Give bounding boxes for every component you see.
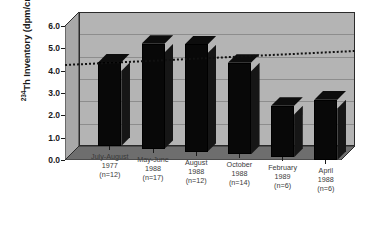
bar — [228, 63, 251, 155]
bar — [271, 106, 294, 157]
x-axis-label-line: February — [249, 163, 317, 172]
x-axis-label-line: (n=12) — [162, 176, 230, 185]
x-axis-label-line: 1988 — [205, 169, 273, 178]
y-axis-tick-label: 0.0 — [48, 155, 60, 165]
y-axis-tick-label: 6.0 — [48, 21, 60, 31]
bar-front-face — [98, 62, 121, 146]
bar — [314, 100, 337, 160]
x-axis-label-line: (n=6) — [292, 184, 360, 193]
y-axis-tick-label: 5.0 — [48, 43, 60, 53]
y-axis-tick-mark — [61, 160, 65, 161]
x-axis-label-line: (n=6) — [249, 181, 317, 190]
x-axis-label-line: (n=17) — [119, 173, 187, 182]
bar-front-face — [185, 44, 208, 151]
plot-area — [65, 12, 355, 160]
chart-root: 234Th Inventory (dpm/cm)2 0.01.02.03.04.… — [0, 0, 368, 226]
bar-series — [65, 12, 355, 160]
bar-side-face — [121, 62, 130, 146]
y-axis-title-main: Th Inventory (dpm/cm) — [21, 0, 32, 91]
bar — [98, 62, 121, 146]
y-axis-tick-labels: 0.01.02.03.04.05.06.0 — [36, 0, 60, 170]
y-axis-title: 234Th Inventory (dpm/cm)2 — [20, 0, 32, 114]
bar-top-face — [185, 36, 217, 45]
x-axis-category-label: August1988(n=12) — [162, 158, 230, 185]
bar-top-face — [314, 91, 346, 100]
x-axis-label-line: 1989 — [249, 172, 317, 181]
x-axis-label-line: 1988 — [292, 175, 360, 184]
y-axis-tick-label: 2.0 — [48, 110, 60, 120]
bar-top-face — [142, 35, 174, 44]
bar-front-face — [228, 63, 251, 155]
x-axis-label-line: October — [205, 160, 273, 169]
bar-side-face — [251, 63, 260, 155]
x-axis-label-line: 1988 — [162, 167, 230, 176]
bar-side-face — [208, 44, 217, 151]
y-axis-tick-label: 1.0 — [48, 133, 60, 143]
bar-front-face — [271, 106, 294, 157]
x-axis-label-line: (n=12) — [76, 170, 144, 179]
x-axis-category-label: February1989(n=6) — [249, 163, 317, 190]
x-axis-label-line: 1988 — [119, 164, 187, 173]
bar-side-face — [337, 100, 346, 160]
x-axis-category-label: April1988(n=6) — [292, 166, 360, 193]
y-axis-title-isotope: 234 — [20, 91, 27, 102]
x-axis-category-label: October1988(n=14) — [205, 160, 273, 187]
y-axis-tick-label: 3.0 — [48, 88, 60, 98]
x-axis-tick-mark — [325, 160, 326, 164]
x-axis-label-line: April — [292, 166, 360, 175]
x-axis-label-line: (n=14) — [205, 178, 273, 187]
x-axis-label-line: 1977 — [76, 161, 144, 170]
bar-side-face — [294, 106, 303, 157]
bar — [185, 44, 208, 151]
y-axis-tick-label: 4.0 — [48, 66, 60, 76]
bar-front-face — [314, 100, 337, 160]
bar-top-face — [271, 97, 303, 106]
